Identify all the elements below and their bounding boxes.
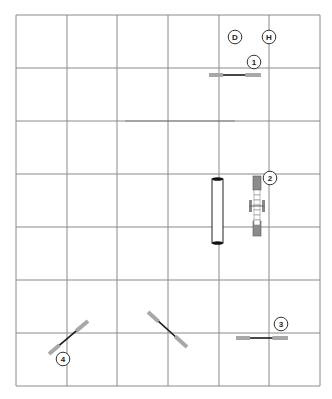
- station-label-4: 4: [56, 352, 70, 366]
- station-label-1: 1: [247, 55, 261, 69]
- marker-h: H: [262, 30, 276, 44]
- station-label-3: 3: [274, 317, 288, 331]
- station-label-3-text: 3: [279, 320, 284, 329]
- markers: DH: [228, 30, 276, 44]
- station-label-2-text: 2: [268, 174, 273, 183]
- bar-4-icon: [49, 321, 88, 354]
- marker-h-text: H: [266, 33, 272, 42]
- station-label-4-text: 4: [61, 355, 66, 364]
- marker-d-text: D: [232, 33, 238, 42]
- marker-d: D: [228, 30, 242, 44]
- station-label-1-text: 1: [252, 58, 257, 67]
- station-labels: 1234: [56, 55, 288, 366]
- cylinder-icon: [212, 177, 223, 245]
- layout-diagram: DH 1234: [0, 0, 332, 399]
- station-label-2: 2: [263, 171, 277, 185]
